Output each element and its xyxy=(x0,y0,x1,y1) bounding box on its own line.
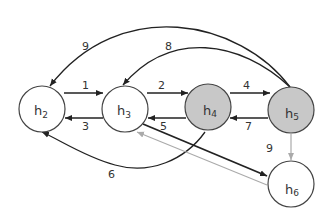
node-h5: h5 xyxy=(268,87,314,133)
graph-diagram: 9 8 1 3 2 5 4 7 6 xyxy=(0,0,328,216)
edge-label: 2 xyxy=(158,79,165,92)
edge-label: 7 xyxy=(245,120,252,133)
node-h6: h6 xyxy=(268,161,314,207)
edge-label: 9 xyxy=(266,142,273,155)
node-h2: h2 xyxy=(19,86,65,132)
edge-h4-h3: 5 xyxy=(148,118,186,133)
edge-label: 3 xyxy=(82,120,89,133)
node-h4: h4 xyxy=(185,84,231,130)
edge-h4-h5: 4 xyxy=(230,79,270,93)
edge-h5-h2: 9 xyxy=(50,27,290,87)
edge-h3-h2: 3 xyxy=(65,118,103,133)
edge-label: 1 xyxy=(82,79,89,92)
edge-h3-h4: 2 xyxy=(147,79,188,93)
edge-h5-h3: 8 xyxy=(123,40,290,87)
edge-h2-h3: 1 xyxy=(64,79,103,93)
edge-label: 8 xyxy=(165,40,172,53)
edge-label: 6 xyxy=(108,168,115,181)
edge-h5-h4: 7 xyxy=(230,118,268,133)
node-h3: h3 xyxy=(102,86,148,132)
edge-h6-h3 xyxy=(137,132,267,185)
edge-h5-h6: 9 xyxy=(266,134,291,160)
edge-label: 9 xyxy=(82,40,89,53)
edge-label: 4 xyxy=(243,79,250,92)
